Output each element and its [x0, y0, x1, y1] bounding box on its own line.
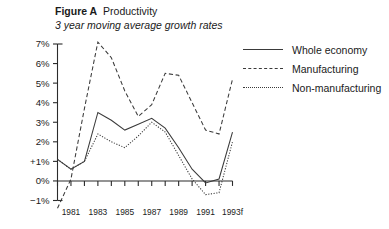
- y-axis-tick-label: 0%: [36, 175, 50, 186]
- chart-plot: −1%0%+1%2%3%4%5%6%7%19811983198519871989…: [0, 0, 389, 229]
- x-axis-tick-label: 1989: [169, 207, 188, 217]
- y-axis-tick-label: 7%: [36, 38, 50, 49]
- y-axis-tick-label: −1%: [30, 195, 50, 206]
- x-axis-tick-label: 1985: [115, 207, 134, 217]
- x-axis-tick-label: 1981: [62, 207, 81, 217]
- series-line-whole-economy: [58, 112, 233, 182]
- x-axis-tick-label: 1993f: [222, 207, 244, 217]
- series-line-non-manufacturing: [58, 122, 233, 194]
- y-axis-tick-label: 2%: [36, 136, 50, 147]
- x-axis-tick-label: 1983: [89, 207, 108, 217]
- y-axis-tick-label: 4%: [36, 97, 50, 108]
- y-axis-tick-label: 3%: [36, 117, 50, 128]
- x-axis-tick-label: 1991: [196, 207, 215, 217]
- x-axis-tick-label: 1987: [142, 207, 161, 217]
- y-axis-tick-label: 6%: [36, 58, 50, 69]
- series-line-manufacturing: [58, 42, 233, 208]
- y-axis-tick-label: +1%: [30, 156, 50, 167]
- figure-container: Figure A Productivity 3 year moving aver…: [0, 0, 389, 229]
- y-axis-tick-label: 5%: [36, 78, 50, 89]
